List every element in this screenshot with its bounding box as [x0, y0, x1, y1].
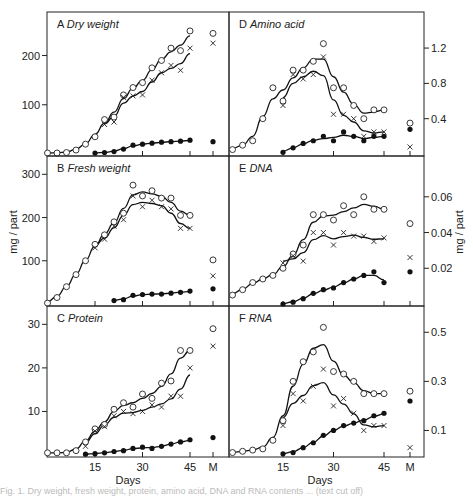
- filled-circle-marker: [407, 398, 412, 403]
- open-circle-marker: [187, 212, 193, 218]
- open-circle-marker: [341, 371, 347, 377]
- filled-circle-marker: [341, 129, 346, 134]
- x-tick-label: M: [208, 461, 217, 473]
- filled-circle-marker: [351, 276, 356, 281]
- open-circle-marker: [381, 107, 387, 113]
- open-circle-marker: [381, 206, 387, 212]
- y-tick-label: 0.4: [431, 113, 446, 125]
- y-tick-label: 0.04: [431, 227, 452, 239]
- open-circle-marker: [111, 114, 117, 120]
- y-tick-label: 100: [22, 255, 40, 267]
- filled-circle-marker: [168, 139, 173, 144]
- x-axis-label: Days: [307, 474, 333, 486]
- filled-circle-marker: [121, 297, 126, 302]
- open-circle-marker: [371, 206, 377, 212]
- y-tick-label: 100: [22, 99, 40, 111]
- filled-circle-marker: [321, 433, 326, 438]
- x-tick-label: 15: [89, 461, 101, 473]
- open-circle-marker: [73, 448, 79, 454]
- filled-circle-marker: [178, 139, 183, 144]
- fit-curve-open: [48, 36, 191, 153]
- open-circle-marker: [54, 450, 60, 456]
- open-circle-marker: [290, 378, 296, 384]
- filled-circle-marker: [321, 287, 326, 292]
- open-circle-marker: [351, 378, 357, 384]
- filled-circle-marker: [187, 437, 192, 442]
- panel-frame: [47, 156, 229, 306]
- open-circle-marker: [240, 287, 246, 293]
- open-circle-marker: [331, 369, 337, 375]
- open-circle-marker: [371, 391, 377, 397]
- filled-circle-marker: [187, 138, 192, 143]
- panel-c: 102030C Protein: [28, 306, 229, 457]
- x-tick-label: M: [405, 461, 414, 473]
- open-circle-marker: [407, 388, 413, 394]
- y-tick-label: 0.8: [431, 77, 446, 89]
- panel-b: 100200300B Fresh weight: [22, 156, 229, 306]
- open-circle-marker: [407, 120, 413, 126]
- filled-circle-marker: [92, 150, 97, 155]
- filled-circle-marker: [159, 140, 164, 145]
- fit-curve-open: [233, 345, 385, 453]
- filled-circle-marker: [102, 450, 107, 455]
- open-circle-marker: [149, 65, 155, 71]
- filled-circle-marker: [351, 420, 356, 425]
- filled-circle-marker: [301, 296, 306, 301]
- open-circle-marker: [159, 57, 165, 63]
- open-circle-marker: [250, 447, 256, 453]
- y-tick-label: 200: [22, 50, 40, 62]
- open-circle-marker: [92, 241, 98, 247]
- filled-circle-marker: [291, 450, 296, 455]
- open-circle-marker: [45, 150, 51, 156]
- filled-circle-marker: [178, 290, 183, 295]
- open-circle-marker: [210, 30, 216, 36]
- open-circle-marker: [121, 210, 127, 216]
- open-circle-marker: [260, 446, 266, 452]
- open-circle-marker: [210, 257, 216, 263]
- filled-circle-marker: [159, 444, 164, 449]
- x-tick-label: 45: [184, 461, 196, 473]
- open-circle-marker: [187, 28, 193, 34]
- filled-circle-marker: [280, 150, 285, 155]
- open-circle-marker: [159, 195, 165, 201]
- open-circle-marker: [300, 242, 306, 248]
- filled-circle-marker: [168, 442, 173, 447]
- open-circle-marker: [331, 85, 337, 91]
- y-tick-label: 0.06: [431, 191, 452, 203]
- panel-a: 100200A Dry weight: [22, 12, 229, 156]
- open-circle-marker: [230, 450, 236, 456]
- y-tick-label: 20: [28, 362, 40, 374]
- filled-circle-marker: [140, 142, 145, 147]
- filled-circle-marker: [178, 439, 183, 444]
- y-tick-label: 300: [22, 168, 40, 180]
- fit-curve-cross: [105, 54, 191, 124]
- open-circle-marker: [210, 326, 216, 332]
- filled-circle-marker: [280, 451, 285, 456]
- open-circle-marker: [178, 347, 184, 353]
- open-circle-marker: [140, 391, 146, 397]
- open-circle-marker: [331, 217, 337, 223]
- filled-circle-marker: [140, 292, 145, 297]
- x-tick-label: 15: [277, 461, 289, 473]
- filled-circle-marker: [321, 134, 326, 139]
- filled-circle-marker: [351, 134, 356, 139]
- panel-title: D Amino acid: [239, 18, 305, 30]
- y-axis-label-left: mg / part: [7, 210, 19, 253]
- filled-circle-marker: [149, 446, 154, 451]
- open-circle-marker: [168, 195, 174, 201]
- figure-canvas: 100200A Dry weight100200300B Fresh weigh…: [0, 0, 473, 498]
- filled-circle-marker: [341, 280, 346, 285]
- open-circle-marker: [178, 212, 184, 218]
- y-tick-label: 1.2: [431, 42, 446, 54]
- open-circle-marker: [64, 284, 70, 290]
- open-circle-marker: [361, 116, 367, 122]
- y-tick-label: 0.5: [431, 326, 446, 338]
- filled-circle-marker: [361, 138, 366, 143]
- fit-curve-filled: [283, 414, 384, 454]
- fit-curve-cross: [95, 202, 190, 245]
- open-circle-marker: [270, 272, 276, 278]
- filled-circle-marker: [331, 138, 336, 143]
- open-circle-marker: [130, 182, 136, 188]
- open-circle-marker: [300, 359, 306, 365]
- filled-circle-marker: [371, 413, 376, 418]
